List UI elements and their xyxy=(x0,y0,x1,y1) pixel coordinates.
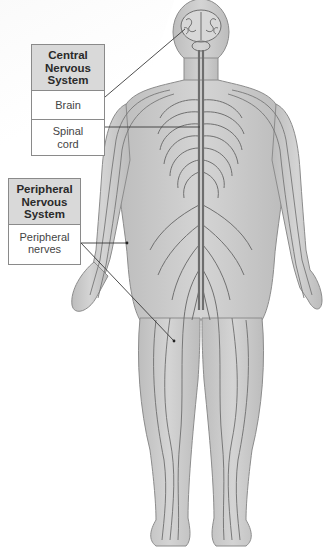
cns-heading-line-1: Central xyxy=(34,49,102,62)
pns-label-box: Peripheral Nervous System Peripheral ner… xyxy=(8,178,81,265)
cns-label-box: Central Nervous System Brain Spinal cord xyxy=(31,44,105,156)
pns-heading: Peripheral Nervous System xyxy=(9,179,80,225)
peripheral-nerves-label: Peripheral nerves xyxy=(9,225,80,264)
pns-heading-line-2: Nervous xyxy=(11,196,78,209)
spinal-cord-label-line-1: Spinal xyxy=(34,125,102,138)
cns-heading-line-3: System xyxy=(34,74,102,87)
spinal-cord-label: Spinal cord xyxy=(32,119,104,155)
brain-label-text: Brain xyxy=(34,99,102,112)
pns-heading-line-3: System xyxy=(11,208,78,221)
leader-endpoint-arm xyxy=(126,242,129,245)
peripheral-nerves-label-line-1: Peripheral xyxy=(11,231,78,244)
pns-heading-line-1: Peripheral xyxy=(11,183,78,196)
cns-heading: Central Nervous System xyxy=(32,45,104,91)
leader-endpoint-leg xyxy=(173,340,176,343)
brain-label: Brain xyxy=(32,91,104,120)
peripheral-nerves-label-line-2: nerves xyxy=(11,243,78,256)
spinal-cord-label-line-2: cord xyxy=(34,138,102,151)
cns-heading-line-2: Nervous xyxy=(34,62,102,75)
